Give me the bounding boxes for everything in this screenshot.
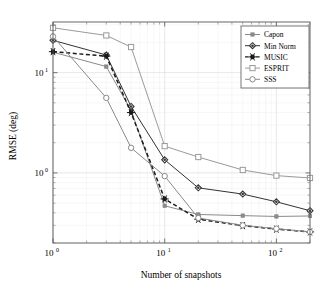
svg-text:0: 0 — [45, 167, 48, 173]
legend-item-min-norm[interactable]: Min Norm — [245, 42, 296, 51]
svg-text:0: 0 — [56, 247, 59, 253]
rmse-vs-snapshots-chart: 100101102 101100 Number of snapshots RMS… — [0, 0, 334, 295]
legend-label: Min Norm — [264, 42, 296, 51]
svg-text:10: 10 — [35, 68, 45, 78]
svg-text:10: 10 — [45, 248, 55, 258]
svg-text:2: 2 — [279, 247, 282, 253]
svg-text:10: 10 — [156, 248, 166, 258]
svg-text:1: 1 — [45, 67, 48, 73]
svg-text:10: 10 — [268, 248, 278, 258]
legend-label: Capon — [264, 30, 284, 39]
chart-figure: 100101102 101100 Number of snapshots RMS… — [0, 0, 334, 295]
y-axis-title: RMSE (deg) — [8, 112, 19, 160]
chart-legend[interactable]: CaponMin NormMUSICESPRITSSS — [241, 26, 309, 88]
svg-text:1: 1 — [168, 247, 171, 253]
svg-text:10: 10 — [35, 168, 45, 178]
legend-label: SSS — [264, 75, 277, 84]
x-axis-title: Number of snapshots — [141, 270, 222, 280]
legend-label: ESPRIT — [264, 64, 289, 73]
legend-label: MUSIC — [264, 53, 288, 62]
